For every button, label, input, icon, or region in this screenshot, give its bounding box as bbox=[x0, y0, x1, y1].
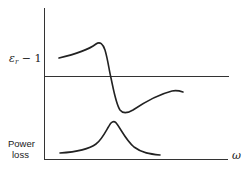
permittivity-curve bbox=[59, 43, 183, 113]
power-loss-curve bbox=[60, 122, 160, 155]
dispersion-diagram: εr − 1 Power loss ω bbox=[0, 0, 243, 172]
omega-label: ω bbox=[232, 149, 241, 162]
power-loss-label-line1: Power bbox=[8, 138, 35, 149]
permittivity-label: εr − 1 bbox=[9, 52, 41, 66]
permittivity-label-suffix: − 1 bbox=[18, 52, 41, 65]
power-loss-label-line2: loss bbox=[12, 149, 29, 160]
